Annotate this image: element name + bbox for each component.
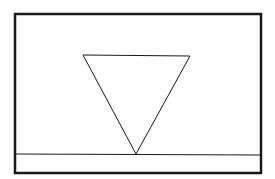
diagram-canvas (0, 0, 275, 179)
baseline (16, 154, 260, 155)
outer-frame (15, 14, 261, 173)
inverted-triangle (83, 55, 190, 154)
